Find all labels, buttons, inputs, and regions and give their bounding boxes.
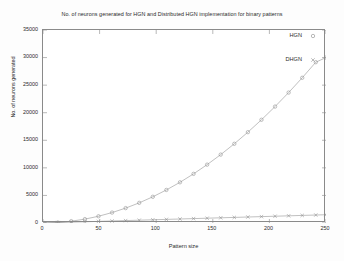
ytick-label: 35000 bbox=[0, 26, 38, 32]
plot-svg bbox=[43, 30, 326, 223]
xtick-label: 150 bbox=[200, 225, 224, 231]
xtick-label: 200 bbox=[256, 225, 280, 231]
ytick-label: 20000 bbox=[0, 109, 38, 115]
xtick-label: 250 bbox=[313, 225, 337, 231]
tick-marks bbox=[43, 30, 326, 223]
chart-figure: No. of neurons generated for HGN and Dis… bbox=[0, 0, 344, 261]
ytick-label: 5000 bbox=[0, 191, 38, 197]
plot-area: HGN DHGN bbox=[42, 29, 325, 222]
x-axis-label: Pattern size bbox=[42, 243, 325, 249]
legend-marker-circle-icon bbox=[308, 32, 318, 40]
legend-label-dhgn: DHGN bbox=[286, 56, 302, 62]
legend-marker-cross-icon bbox=[308, 56, 318, 64]
ytick-label: 15000 bbox=[0, 136, 38, 142]
ytick-label: 10000 bbox=[0, 164, 38, 170]
xtick-label: 0 bbox=[30, 225, 54, 231]
ytick-label: 25000 bbox=[0, 81, 38, 87]
chart-title: No. of neurons generated for HGN and Dis… bbox=[0, 11, 344, 17]
ytick-label: 30000 bbox=[0, 53, 38, 59]
xtick-label: 100 bbox=[143, 225, 167, 231]
series-layer bbox=[43, 56, 326, 223]
legend-label-hgn: HGN bbox=[290, 32, 302, 38]
series-line-hgn bbox=[44, 58, 326, 223]
ytick-label: 0 bbox=[0, 219, 38, 225]
y-axis-label: No. of neurons generated bbox=[10, 27, 16, 147]
xtick-label: 50 bbox=[87, 225, 111, 231]
